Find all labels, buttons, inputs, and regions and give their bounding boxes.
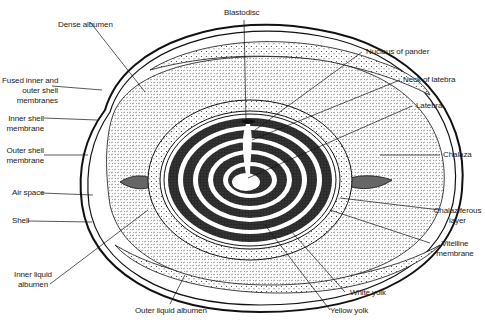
label-outer-liquid-albumen: Outer liquid albumen [135,306,207,316]
label-dense-albumen: Dense albumen [58,20,113,30]
label-shell: Shell [12,216,29,226]
egg-diagram: Dense albumen Blastodisc Nucleus of pand… [0,0,485,324]
label-inner-shell-membrane: Inner shell membrane [2,114,44,134]
label-blastodisc: Blastodisc [224,8,259,18]
label-latebra: Latebra [416,101,442,111]
label-vitelline-membrane: Vitelline membrane [430,239,480,259]
label-air-space: Air space [12,188,44,198]
label-white-yolk: White yolk [350,288,386,298]
latebra [232,173,260,191]
label-chalaziferous-layer: Chalaziferous layer [430,206,485,226]
label-neck-of-latebra: Neck of latebra [403,75,455,85]
label-chalaza: Chalaza [443,150,472,160]
label-outer-shell-membrane: Outer shell membrane [2,146,44,166]
label-fused-membranes: Fused inner and outer shell membranes [2,76,58,106]
label-inner-liquid-albumen: Inner liquid albumen [10,270,56,290]
label-yellow-yolk: Yellow yolk [330,306,368,316]
label-nucleus-of-pander: Nucleus of pander [366,47,429,57]
